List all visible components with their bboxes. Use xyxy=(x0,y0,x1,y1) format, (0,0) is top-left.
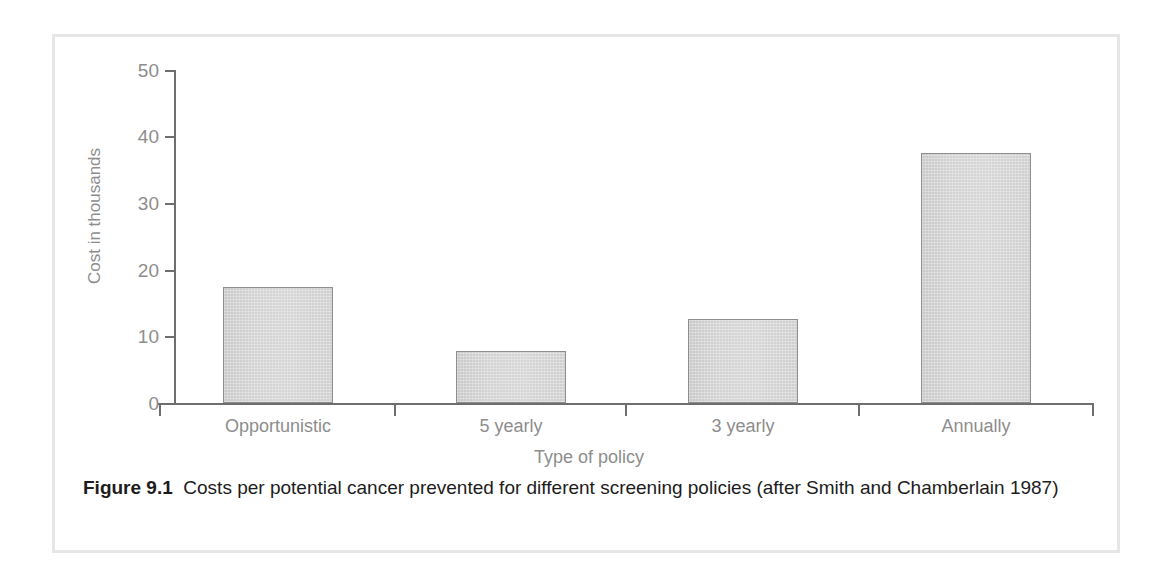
x-tick-2 xyxy=(625,405,627,416)
y-tick-40 xyxy=(165,136,175,138)
figure-caption-text: Costs per potential cancer prevented for… xyxy=(183,477,1058,498)
y-tick-label-0: 0 xyxy=(113,394,159,413)
y-tick-label-50: 50 xyxy=(113,61,159,80)
bar-opportunistic[interactable] xyxy=(223,287,333,403)
bar-5-yearly[interactable] xyxy=(456,351,566,403)
figure-panel: Cost in thousands 50 40 30 20 10 0 Oppor… xyxy=(52,34,1120,553)
bar-3-yearly[interactable] xyxy=(688,319,798,403)
y-tick-50 xyxy=(165,70,175,72)
y-tick-30 xyxy=(165,203,175,205)
y-tick-0 xyxy=(165,403,175,405)
y-tick-label-40: 40 xyxy=(113,127,159,146)
x-category-label-opportunistic: Opportunistic xyxy=(178,415,378,437)
x-category-label-5-yearly: 5 yearly xyxy=(411,415,611,437)
figure-caption: Figure 9.1 Costs per potential cancer pr… xyxy=(83,474,1098,501)
x-tick-start xyxy=(159,405,161,416)
figure-caption-spacer xyxy=(173,477,184,498)
y-tick-label-10: 10 xyxy=(113,327,159,346)
y-tick-label-30: 30 xyxy=(113,194,159,213)
x-tick-1 xyxy=(394,405,396,416)
y-axis-title: Cost in thousands xyxy=(86,116,104,316)
y-axis-line xyxy=(174,70,176,404)
bar-annually[interactable] xyxy=(921,153,1031,403)
chart-plot-area: Cost in thousands 50 40 30 20 10 0 Oppor… xyxy=(55,37,1123,456)
x-category-label-3-yearly: 3 yearly xyxy=(643,415,843,437)
y-tick-label-20: 20 xyxy=(113,261,159,280)
x-category-label-annually: Annually xyxy=(876,415,1076,437)
y-tick-10 xyxy=(165,336,175,338)
x-tick-3 xyxy=(858,405,860,416)
x-tick-end xyxy=(1092,405,1094,416)
x-axis-title: Type of policy xyxy=(55,447,1123,467)
y-tick-20 xyxy=(165,270,175,272)
figure-caption-label: Figure 9.1 xyxy=(83,477,173,498)
